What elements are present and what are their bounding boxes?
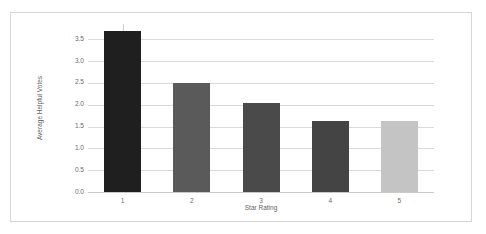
x-tick-label: 1: [88, 198, 157, 205]
y-axis-tick-labels: 0.00.51.01.52.02.53.03.5: [52, 24, 84, 192]
y-tick-label: 2.5: [54, 79, 84, 86]
y-tick-label: 1.0: [54, 145, 84, 152]
gridline: [88, 192, 434, 193]
plot-area: 12345: [88, 24, 434, 192]
bar: [243, 103, 280, 192]
y-tick-label: 3.5: [54, 36, 84, 43]
bar-chart-figure: Average Helpful Votes 0.00.51.01.52.02.5…: [0, 0, 486, 234]
bar: [173, 83, 210, 192]
y-tick-label: 3.0: [54, 58, 84, 65]
y-tick-label: 0.0: [54, 189, 84, 196]
y-axis-title: Average Helpful Votes: [37, 76, 44, 140]
x-tick-label: 4: [296, 198, 365, 205]
x-tick-label: 2: [157, 198, 226, 205]
x-tick-label: 5: [365, 198, 434, 205]
y-tick-label: 1.5: [54, 123, 84, 130]
axis-tick-artifact: [123, 24, 124, 31]
bar: [312, 121, 349, 192]
x-axis-title: Star Rating: [88, 205, 434, 212]
bar: [381, 121, 418, 192]
bar: [104, 31, 141, 192]
y-tick-label: 2.0: [54, 101, 84, 108]
y-tick-label: 0.5: [54, 167, 84, 174]
